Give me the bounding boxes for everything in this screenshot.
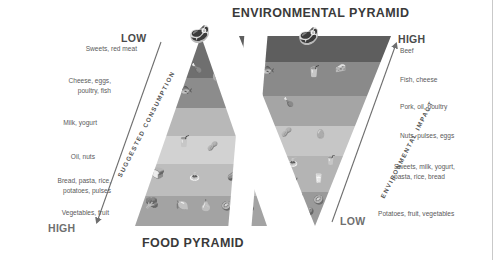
env-icon-cheese: 🧀 [335,64,346,73]
food-label-sweets-red-meat: Sweets, red meat [86,44,137,54]
env-icon-yogurt-cup: 🥤 [325,156,336,165]
food-label-cheese-eggs-poultry-fish: Cheese, eggs, poultry, fish [68,76,111,95]
food-icon-pear: 🍐 [199,200,213,211]
food-icon-pasta: 🍝 [189,172,200,181]
food-icon-egg: 🥚 [211,72,222,81]
env-label-nuts-pulses-eggs: Nuts, pulses, eggs [400,131,454,141]
env-icon-broccoli: 🥦 [293,194,304,203]
food-label-vegetables-fruit: Vegetables, fruit [62,208,109,218]
env-label-fish-cheese: Fish, cheese [400,75,437,85]
pyramid-separator-wedge [228,30,268,230]
environmental-pyramid-title: ENVIRONMENTAL PYRAMID [232,6,409,20]
food-label-bread-pasta-rice: Bread, pasta, rice, potatoes, pulses [57,176,111,195]
env-icon-bread-loaf: 🍞 [287,176,298,185]
environmental-impact-axis-label: ENVIRONMENTAL IMPACT [379,99,434,199]
env-icon-kiwi: 🥝 [313,196,324,205]
env-icon-poultry-leg: 🍗 [283,98,294,107]
food-icon-fish: 🐟 [179,84,193,95]
env-label-potatoes-fruit-veg: Potatoes, fruit, vegetables [378,209,454,219]
food-icon-poultry-leg: 🍗 [191,64,202,73]
food-label-oil-nuts: Oil, nuts [71,152,95,162]
env-icon-nuts: 🥜 [281,128,292,137]
env-icon-steak-top: 🥩 [298,28,319,45]
env-icon-oil-bottle: 🥤 [307,66,321,77]
food-icon-steak-apex: 🥩 [189,26,210,43]
food-label-milk-yogurt: Milk, yogurt [63,118,97,128]
env-label-pork-oil-poultry: Pork, oil, poultry [400,102,447,112]
env-icon-potato: 🥔 [303,208,314,217]
food-icon-nuts: 🥜 [207,142,218,151]
env-icon-milk-carton: 🥛 [313,174,324,183]
impact-low-label: LOW [340,215,365,227]
env-icon-pasta: 🍝 [287,158,298,167]
env-label-sweets-milk-yogurt: Sweets, milk, yogurt, pasta, rice, bread [394,162,455,181]
food-icon-pepper: 🍋 [175,200,189,211]
consumption-low-label: LOW [121,32,146,44]
food-icon-broccoli: 🥦 [145,198,159,209]
impact-high-label: HIGH [398,33,425,45]
env-label-beef: Beef [400,46,414,56]
food-pyramid-title: FOOD PYRAMID [142,236,244,250]
consumption-high-label: HIGH [48,222,75,234]
food-icon-bread-loaf: 🍞 [151,168,165,179]
env-icon-egg: 🥚 [315,130,326,139]
food-icon-oil-bottle: 🥤 [177,136,191,147]
environmental-food-pyramid-figure: ENVIRONMENTAL PYRAMID FOOD PYRAMID 🧀 🍗 🥚… [0,0,493,260]
